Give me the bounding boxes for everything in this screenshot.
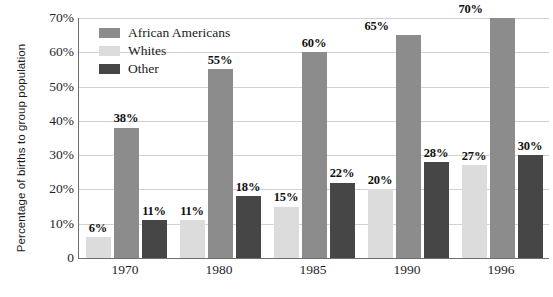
- bar-rect: [142, 220, 167, 258]
- bar-rect: [208, 69, 233, 258]
- legend-item-whites: Whites: [99, 42, 279, 59]
- bar-rect: [114, 128, 139, 258]
- legend-item-other: Other: [99, 60, 279, 77]
- legend-label: Other: [128, 62, 159, 76]
- bar-rect: [490, 18, 515, 258]
- bar-1985-african-americans: 60%: [302, 18, 327, 258]
- bar-group-1990: 20%65%28%: [361, 18, 455, 258]
- bar-value-label: 70%: [459, 3, 515, 16]
- legend-item-african-americans: African Americans: [99, 24, 279, 41]
- x-axis-tick-label: 1996: [488, 262, 515, 278]
- bar-1996-whites: 27%: [462, 18, 487, 258]
- bar-value-label: 18%: [227, 181, 270, 194]
- bar-value-label: 11%: [133, 205, 176, 218]
- y-axis-tick-label: 60%: [30, 46, 74, 60]
- bar-rect: [518, 155, 543, 258]
- y-axis-tick-label: 40%: [30, 114, 74, 128]
- bar-value-label: 28%: [415, 147, 458, 160]
- bar-1996-other: 30%: [518, 18, 543, 258]
- x-axis-tick-label: 1985: [300, 262, 327, 278]
- bar-value-label: 65%: [365, 20, 421, 33]
- bar-rect: [462, 165, 487, 258]
- bar-chart-figure: Percentage of births to group population…: [0, 0, 553, 297]
- bar-1990-other: 28%: [424, 18, 449, 258]
- x-axis-tick-labels: 19701980198519901996: [78, 262, 548, 284]
- bar-rect: [368, 189, 393, 258]
- y-axis-tick-label: 30%: [30, 148, 74, 162]
- bar-group-1996: 27%70%30%: [455, 18, 549, 258]
- chart-legend: African AmericansWhitesOther: [99, 24, 279, 78]
- bar-value-label: 22%: [321, 167, 364, 180]
- x-axis-tick-label: 1970: [112, 262, 139, 278]
- x-axis-tick-label: 1990: [394, 262, 421, 278]
- y-axis-tick-label: 50%: [30, 80, 74, 94]
- bar-rect: [330, 183, 355, 258]
- bar-rect: [274, 207, 299, 258]
- bar-rect: [424, 162, 449, 258]
- bar-group-1985: 15%60%22%: [267, 18, 361, 258]
- y-axis-tick-label: 10%: [30, 217, 74, 231]
- legend-swatch-icon: [99, 64, 120, 74]
- bar-1990-whites: 20%: [368, 18, 393, 258]
- y-axis-tick-labels: 010%20%30%40%50%60%70%: [30, 0, 74, 297]
- bar-rect: [302, 52, 327, 258]
- bar-value-label: 30%: [509, 140, 552, 153]
- legend-swatch-icon: [99, 28, 120, 38]
- legend-label: Whites: [128, 44, 166, 58]
- y-axis-tick-label: 0: [30, 251, 74, 265]
- y-axis-tick-label: 20%: [30, 183, 74, 197]
- y-axis-tick-label: 70%: [30, 11, 74, 25]
- bar-1985-other: 22%: [330, 18, 355, 258]
- bar-1990-african-americans: 65%: [396, 18, 421, 258]
- legend-label: African Americans: [128, 26, 230, 40]
- bar-rect: [86, 237, 111, 258]
- bar-rect: [180, 220, 205, 258]
- bar-rect: [236, 196, 261, 258]
- bar-1996-african-americans: 70%: [490, 18, 515, 258]
- x-axis-tick-label: 1980: [206, 262, 233, 278]
- legend-swatch-icon: [99, 46, 120, 56]
